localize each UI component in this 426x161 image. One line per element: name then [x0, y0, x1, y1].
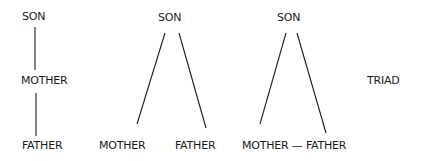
node-father-2: FATHER: [175, 140, 215, 152]
triad-caption: TRIAD: [367, 75, 400, 87]
node-son-1: SON: [22, 11, 45, 23]
node-son-2: SON: [158, 12, 181, 24]
node-son-3: SON: [277, 12, 300, 24]
node-mother-father-3: MOTHER — FATHER: [242, 140, 346, 152]
node-mother-1: MOTHER: [21, 75, 68, 87]
node-father-1: FATHER: [22, 140, 62, 152]
edge-son-mother-3: [260, 33, 286, 124]
edge-son-father-2: [179, 33, 206, 128]
edge-son-mother-2: [137, 33, 165, 124]
edge-son-father-3: [297, 33, 326, 133]
node-mother-2: MOTHER: [99, 140, 146, 152]
